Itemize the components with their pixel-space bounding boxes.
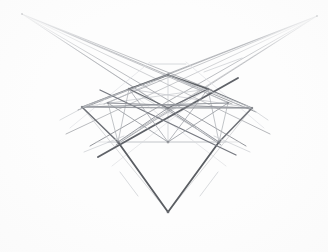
node-bottom-mid-node (167, 141, 170, 144)
node-mid-left-node (107, 102, 109, 104)
node-vanishing-point-right (316, 15, 318, 17)
node-center-node (166, 106, 170, 110)
node-mid-right-node (227, 102, 229, 104)
node-upper-right-vertex (207, 88, 210, 91)
node-upper-left-vertex (128, 88, 131, 91)
node-lower-right-vertex (217, 140, 220, 143)
drawing-canvas (0, 0, 328, 252)
node-vanishing-point-left (21, 13, 23, 15)
node-right-horizon-node (251, 107, 254, 110)
node-bottom-apex (166, 210, 169, 213)
perspective-drawing-svg (0, 0, 328, 252)
node-top-vertex (167, 74, 170, 77)
node-left-horizon-node (81, 106, 84, 109)
node-lower-left-vertex (116, 140, 119, 143)
